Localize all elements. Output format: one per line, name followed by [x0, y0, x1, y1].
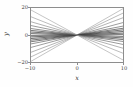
x-tick-label-neg10: −10: [22, 66, 38, 71]
x-tick-label-0: 0: [69, 66, 85, 71]
x-tick-label-10: 10: [116, 66, 132, 71]
plot-area: [30, 7, 124, 63]
y-axis-label: y: [3, 32, 9, 36]
y-tick-label-20: 20: [14, 5, 28, 10]
x-axis-label: x: [69, 75, 85, 81]
line-series-group: [31, 8, 123, 62]
figure: y 20 0 −20 −10 0 10 x: [0, 0, 133, 87]
y-tick-label-0: 0: [14, 33, 28, 38]
data-line: [31, 10, 123, 60]
